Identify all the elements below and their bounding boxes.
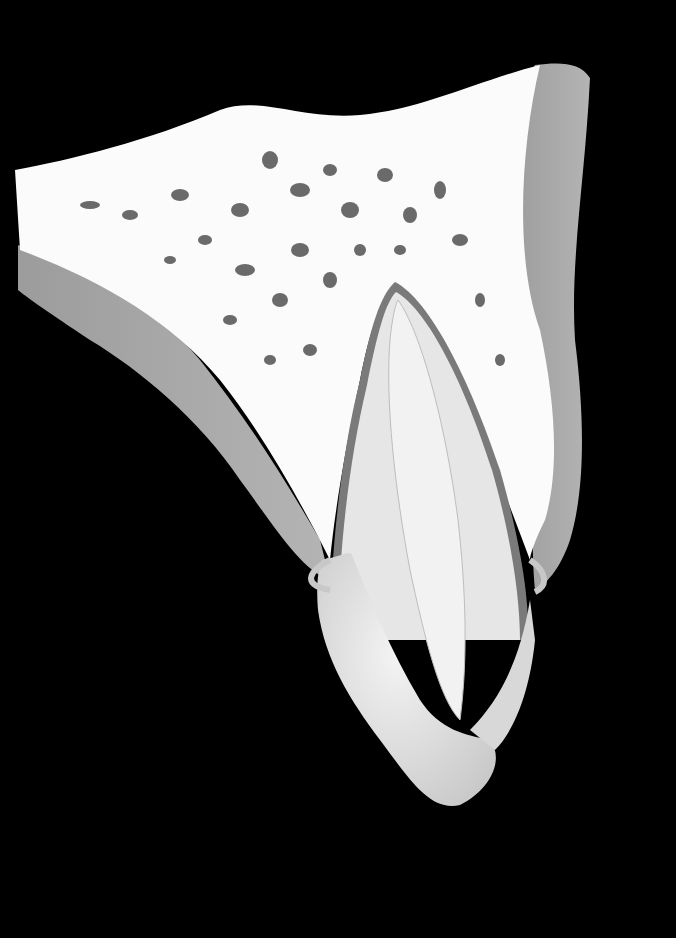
illustration-frame [0,0,684,946]
tooth-bone-illustration [0,0,684,946]
